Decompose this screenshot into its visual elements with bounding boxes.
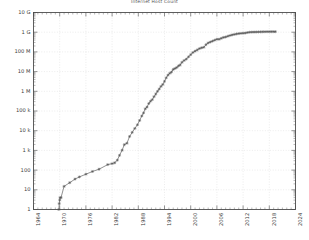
data-point bbox=[200, 46, 203, 49]
data-series-internet-hosts bbox=[57, 30, 277, 211]
data-point bbox=[63, 185, 66, 188]
data-point bbox=[244, 32, 247, 35]
data-point bbox=[154, 93, 157, 96]
data-point bbox=[235, 32, 238, 35]
y-axis-tick-label: 1 k bbox=[23, 148, 31, 153]
data-point bbox=[136, 123, 139, 126]
y-axis-tick-label: 10 k bbox=[19, 128, 30, 133]
data-point bbox=[156, 90, 159, 93]
x-axis-tick-label: 1988 bbox=[141, 212, 146, 225]
data-point bbox=[91, 170, 94, 173]
y-axis-tick-label: 100 bbox=[21, 168, 31, 173]
data-point bbox=[163, 80, 166, 83]
y-axis-tick-label: 10 G bbox=[18, 10, 30, 15]
data-point bbox=[246, 31, 249, 34]
data-point bbox=[151, 98, 154, 101]
data-point bbox=[196, 48, 199, 51]
data-point bbox=[179, 63, 182, 66]
data-point bbox=[204, 43, 207, 46]
chart-plot-svg bbox=[0, 0, 309, 240]
data-point bbox=[68, 181, 71, 184]
data-point bbox=[58, 199, 61, 202]
data-point bbox=[231, 33, 234, 36]
data-point bbox=[191, 51, 194, 54]
data-point bbox=[106, 163, 109, 166]
x-axis-tick-label: 1970 bbox=[62, 212, 67, 225]
data-point bbox=[161, 83, 164, 86]
data-point bbox=[229, 34, 232, 37]
data-point bbox=[189, 53, 192, 56]
data-point bbox=[116, 159, 119, 162]
data-point bbox=[224, 35, 227, 38]
data-point bbox=[78, 175, 81, 178]
data-point bbox=[125, 142, 128, 145]
data-point bbox=[140, 114, 143, 117]
data-point bbox=[165, 76, 168, 79]
data-point bbox=[187, 55, 190, 58]
data-point bbox=[84, 173, 87, 176]
x-axis-tick-label: 2000 bbox=[193, 212, 198, 225]
data-point bbox=[73, 178, 76, 181]
data-point bbox=[147, 102, 150, 105]
data-point bbox=[226, 35, 229, 38]
data-point bbox=[185, 58, 188, 61]
y-axis-tick-label: 100 M bbox=[14, 49, 30, 54]
x-axis-tick-label: 1976 bbox=[88, 212, 93, 225]
y-axis-tick-label: 1 M bbox=[21, 89, 30, 94]
chart-root: Internet Host Count 1101001 k10 k100 k1 … bbox=[0, 0, 309, 240]
data-point bbox=[183, 59, 186, 62]
data-point bbox=[131, 131, 134, 134]
data-point bbox=[158, 87, 161, 90]
x-axis-tick-label: 2012 bbox=[245, 212, 250, 225]
data-point bbox=[142, 111, 145, 114]
x-axis-tick-label: 2024 bbox=[298, 212, 303, 225]
data-point bbox=[153, 95, 156, 98]
data-point bbox=[121, 149, 124, 152]
x-axis-tick-label: 1964 bbox=[36, 212, 41, 225]
data-point bbox=[146, 106, 149, 109]
y-axis-tick-label: 10 bbox=[24, 187, 31, 192]
data-point bbox=[274, 30, 277, 33]
y-axis-tick-label: 100 k bbox=[16, 108, 31, 113]
y-axis-tick-label: 1 bbox=[27, 207, 30, 212]
data-point bbox=[180, 61, 183, 64]
data-point bbox=[118, 154, 121, 157]
data-point bbox=[170, 71, 173, 74]
data-point bbox=[113, 161, 116, 164]
data-point bbox=[60, 196, 63, 199]
data-point bbox=[138, 119, 141, 122]
x-axis-tick-label: 1982 bbox=[114, 212, 119, 225]
grid-lines bbox=[34, 13, 296, 210]
y-axis-tick-label: 1 G bbox=[22, 30, 31, 35]
data-point bbox=[98, 168, 101, 171]
data-point bbox=[111, 162, 114, 165]
y-axis-tick-label: 10 M bbox=[18, 69, 31, 74]
x-axis-tick-label: 2006 bbox=[219, 212, 224, 225]
x-axis-tick-label: 2018 bbox=[272, 212, 277, 225]
data-point bbox=[202, 46, 205, 49]
data-point bbox=[233, 33, 236, 36]
data-point bbox=[128, 135, 131, 138]
data-point bbox=[133, 127, 136, 130]
x-axis-tick-label: 1994 bbox=[167, 212, 172, 225]
data-point bbox=[123, 143, 126, 146]
data-point bbox=[58, 202, 61, 205]
data-point bbox=[222, 36, 225, 39]
